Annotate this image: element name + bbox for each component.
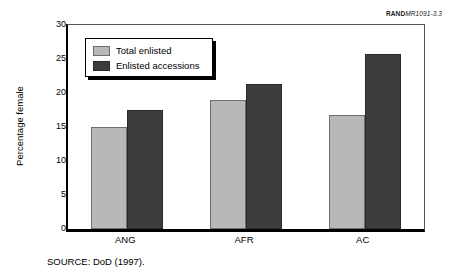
y-axis-tick-label: 25: [34, 54, 66, 63]
legend-item-label: Enlisted accessions: [116, 60, 199, 71]
legend-item: Total enlisted: [93, 44, 171, 57]
rand-document-id-number: MR1091-3.3: [405, 10, 442, 17]
legend-item-label: Total enlisted: [116, 45, 171, 56]
y-axis-tick-label: 15: [34, 122, 66, 131]
y-axis-tick-label: 20: [34, 88, 66, 97]
rand-document-id-prefix: RAND: [386, 10, 405, 17]
bar: [246, 84, 282, 229]
bar: [210, 100, 246, 229]
y-axis-tick-label: 5: [34, 190, 66, 199]
rand-document-id: RANDMR1091-3.3: [386, 10, 442, 17]
legend-swatch-icon: [93, 61, 110, 71]
x-axis-tick-label: ANG: [115, 234, 136, 245]
figure-bar-chart: RANDMR1091-3.3 Percentage female 0510152…: [0, 0, 450, 279]
legend-swatch-icon: [93, 46, 110, 56]
chart-legend: Total enlisted Enlisted accessions: [85, 38, 213, 77]
source-note: SOURCE: DoD (1997).: [47, 256, 145, 267]
x-axis-tick-label: AFR: [235, 234, 254, 245]
y-axis-tick-label: 30: [34, 20, 66, 29]
bar: [91, 127, 127, 229]
legend-item: Enlisted accessions: [93, 59, 199, 72]
bar: [127, 110, 163, 229]
bar: [329, 115, 365, 229]
y-axis-tick-label: 0: [34, 224, 66, 233]
y-axis-label: Percentage female: [14, 86, 25, 166]
bar: [365, 54, 401, 229]
y-axis-tick-label: 10: [34, 156, 66, 165]
x-axis-tick-label: AC: [356, 234, 369, 245]
